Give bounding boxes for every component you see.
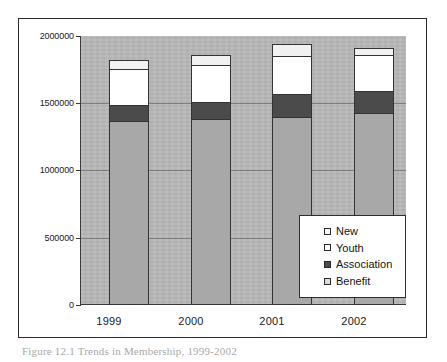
stacked-bar-chart: 2000000 1500000 1000000 500000 0 1999 20… bbox=[19, 19, 426, 337]
x-axis-label-2000: 2000 bbox=[156, 315, 226, 327]
legend-item-association[interactable]: Association bbox=[300, 256, 405, 273]
legend-label-benefit: Benefit bbox=[336, 275, 370, 288]
legend-item-new[interactable]: New bbox=[300, 223, 405, 240]
legend-item-benefit[interactable]: Benefit bbox=[300, 273, 405, 290]
bar-segment-youth-2000[interactable] bbox=[191, 65, 231, 102]
bar-segment-youth-1999[interactable] bbox=[109, 69, 149, 105]
x-axis-label-2001: 2001 bbox=[237, 315, 307, 327]
bar-stack-2000[interactable] bbox=[191, 55, 231, 305]
legend-label-youth: Youth bbox=[336, 242, 364, 255]
bar-segment-new-2000[interactable] bbox=[191, 55, 231, 65]
x-axis-label-1999: 1999 bbox=[74, 315, 144, 327]
y-axis-label-2000000: 2000000 bbox=[40, 31, 74, 41]
legend-swatch-youth-icon bbox=[324, 244, 331, 251]
y-axis-line bbox=[80, 36, 81, 306]
y-tick-2000000 bbox=[76, 36, 80, 37]
legend-swatch-new-icon bbox=[324, 228, 331, 235]
bar-segment-association-2001[interactable] bbox=[272, 94, 312, 117]
bar-segment-benefit-1999[interactable] bbox=[109, 121, 149, 305]
bar-segment-association-2002[interactable] bbox=[354, 91, 394, 113]
bar-stack-1999[interactable] bbox=[109, 60, 149, 305]
y-tick-1000000 bbox=[76, 170, 80, 171]
legend-item-youth[interactable]: Youth bbox=[300, 240, 405, 257]
y-tick-500000 bbox=[76, 238, 80, 239]
bar-segment-new-2002[interactable] bbox=[354, 48, 394, 55]
y-axis-label-1000000: 1000000 bbox=[40, 165, 74, 175]
bar-segment-new-2001[interactable] bbox=[272, 44, 312, 56]
y-axis-label-1500000: 1500000 bbox=[40, 98, 74, 108]
y-axis-label-500000: 500000 bbox=[45, 233, 74, 243]
y-axis-label-0: 0 bbox=[69, 300, 74, 310]
y-tick-1500000 bbox=[76, 103, 80, 104]
chart-legend: New Youth Association Benefit bbox=[299, 215, 406, 298]
bar-segment-youth-2002[interactable] bbox=[354, 55, 394, 91]
legend-label-new: New bbox=[336, 225, 358, 238]
x-axis-label-2002: 2002 bbox=[319, 315, 389, 327]
bar-segment-association-2000[interactable] bbox=[191, 102, 231, 119]
bar-segment-association-1999[interactable] bbox=[109, 105, 149, 121]
legend-swatch-benefit-icon bbox=[324, 278, 331, 285]
figure-frame: 2000000 1500000 1000000 500000 0 1999 20… bbox=[18, 18, 427, 338]
figure-caption: Figure 12.1 Trends in Membership, 1999-2… bbox=[22, 345, 237, 362]
legend-swatch-association-icon bbox=[324, 261, 331, 268]
bar-segment-new-1999[interactable] bbox=[109, 60, 149, 69]
legend-label-association: Association bbox=[336, 258, 392, 271]
y-tick-0 bbox=[76, 305, 80, 306]
bar-segment-benefit-2000[interactable] bbox=[191, 119, 231, 305]
bar-segment-youth-2001[interactable] bbox=[272, 56, 312, 94]
